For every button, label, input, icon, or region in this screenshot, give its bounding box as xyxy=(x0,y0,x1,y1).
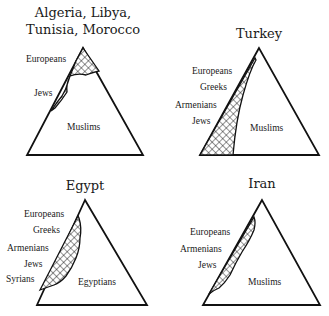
label-greeks: Greeks xyxy=(200,82,227,92)
label-armenians: Armenians xyxy=(7,243,49,253)
label-jews: Jews xyxy=(24,259,43,269)
label-majority: Muslims xyxy=(248,277,282,287)
panel-title-line-1: Algeria, Libya, xyxy=(34,5,131,20)
label-armenians: Armenians xyxy=(175,100,217,110)
panel-title: Egypt xyxy=(66,178,105,193)
panel-maghreb: Algeria, Libya, Tunisia, Morocco Europea… xyxy=(26,5,143,155)
ethnic-composition-diagram: Algeria, Libya, Tunisia, Morocco Europea… xyxy=(0,0,329,316)
label-majority: Muslims xyxy=(250,123,284,133)
panel-turkey: Turkey Europeans Greeks Armenians Jews M… xyxy=(175,26,319,155)
label-majority: Muslims xyxy=(67,122,101,132)
panel-title: Iran xyxy=(248,176,276,191)
europeans-region xyxy=(70,48,99,76)
label-jews: Jews xyxy=(198,260,217,270)
label-jews: Jews xyxy=(192,116,211,126)
label-europeans: Europeans xyxy=(190,227,230,237)
panel-title: Turkey xyxy=(236,26,283,41)
label-greeks: Greeks xyxy=(33,225,60,235)
label-majority: Egyptians xyxy=(78,277,116,287)
panel-iran: Iran Europeans Armenians Jews Muslims xyxy=(180,176,320,305)
label-syrians: Syrians xyxy=(6,274,35,284)
label-jews: Jews xyxy=(34,88,53,98)
label-europeans: Europeans xyxy=(192,66,232,76)
label-armenians: Armenians xyxy=(180,244,222,254)
label-europeans: Europeans xyxy=(24,209,64,219)
panel-egypt: Egypt Europeans Greeks Armenians Jews Sy… xyxy=(6,178,147,305)
panel-title-line-2: Tunisia, Morocco xyxy=(26,22,140,37)
label-europeans: Europeans xyxy=(26,54,66,64)
